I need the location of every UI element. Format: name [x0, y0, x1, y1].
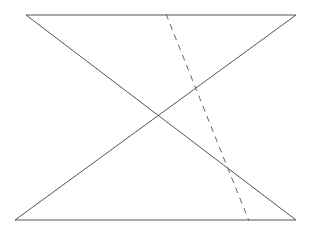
- line-segments: [15, 14, 296, 221]
- diagram-canvas: [0, 0, 313, 232]
- diagonal-down-line: [26, 15, 296, 220]
- diagonal-up-line: [15, 15, 296, 220]
- transversal-line: [166, 14, 249, 221]
